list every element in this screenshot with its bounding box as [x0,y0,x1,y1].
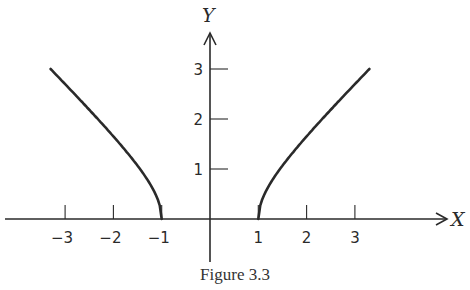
x-tick-label: −3 [51,229,73,247]
y-tick-label: 3 [193,61,203,79]
x-tick-label: −2 [99,229,121,247]
x-tick-label: −1 [148,229,170,247]
x-ticks: −3−2−1123 [51,205,360,247]
x-tick-label: 1 [254,229,264,247]
y-axis-label: Y [202,4,217,26]
curve-left-branch [51,69,162,219]
figure: X Y −3−2−1123 123 Figure 3.3 [0,0,470,290]
plot-area: X Y −3−2−1123 123 [0,0,470,290]
figure-caption: Figure 3.3 [0,265,470,285]
y-tick-label: 1 [193,161,203,179]
y-tick-label: 2 [193,111,203,129]
curve-right-branch [258,69,369,219]
x-tick-label: 3 [350,229,360,247]
x-tick-label: 2 [302,229,312,247]
x-axis-label: X [449,208,466,230]
